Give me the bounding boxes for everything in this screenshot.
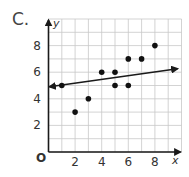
x-tick-label: 2 [71, 155, 79, 169]
data-point [139, 56, 145, 62]
data-point [59, 83, 65, 89]
x-axis-label: x [171, 154, 179, 167]
data-point [126, 56, 132, 62]
data-point [152, 43, 158, 49]
data-point [86, 96, 92, 102]
y-tick-label: 8 [33, 39, 41, 53]
y-tick-label: 2 [33, 118, 41, 132]
data-point [112, 83, 118, 89]
x-tick-label: 6 [124, 155, 132, 169]
data-point [99, 69, 105, 75]
scatter-plot: 24682468 x y O [0, 0, 189, 177]
data-point [72, 109, 78, 115]
y-tick-label: 6 [33, 65, 41, 79]
x-tick-label: 8 [151, 155, 159, 169]
y-tick-label: 4 [33, 92, 41, 106]
data-point [126, 83, 132, 89]
data-point [112, 69, 118, 75]
y-axis-label: y [52, 17, 60, 30]
origin-label: O [36, 151, 46, 165]
x-tick-label: 4 [98, 155, 106, 169]
